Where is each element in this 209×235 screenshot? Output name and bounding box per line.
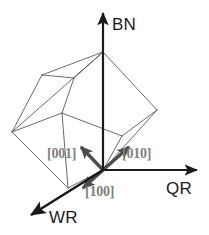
cube-edge	[74, 52, 103, 78]
figure-canvas	[0, 0, 209, 235]
cube-edge	[12, 75, 42, 132]
cube-edge	[103, 136, 122, 170]
axis-label-wr: WR	[49, 209, 78, 226]
cube-edge	[103, 52, 157, 110]
cube-edge	[42, 52, 103, 75]
cube-edge	[62, 113, 122, 136]
direction-label-100: [100]	[85, 185, 114, 199]
cube-edge	[122, 110, 157, 136]
cube-edge	[42, 75, 74, 78]
axis-label-qr: QR	[166, 180, 192, 197]
crystal-orientation-figure: BN QR WR [001] [010] [100]	[0, 0, 209, 235]
direction-arrow-001	[81, 147, 103, 170]
cube-wireframe	[12, 52, 157, 188]
cube-edge	[12, 113, 62, 132]
direction-label-001: [001]	[47, 147, 76, 161]
axis-label-bn: BN	[112, 16, 136, 33]
direction-label-010: [010]	[122, 147, 151, 161]
